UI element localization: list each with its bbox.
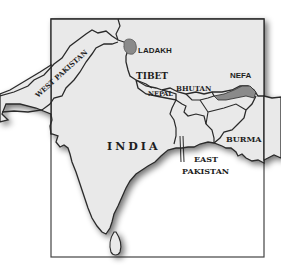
label-nepal: NEPAL bbox=[148, 90, 173, 98]
label-nefa: NEFA bbox=[230, 71, 252, 80]
island-ceylon bbox=[110, 232, 121, 255]
label-india: INDIA bbox=[107, 140, 160, 153]
landmass-east-extension bbox=[264, 96, 281, 160]
label-east-pakistan-2: PAKISTAN bbox=[182, 166, 229, 176]
label-east-pakistan-1: EAST bbox=[194, 154, 218, 164]
label-ladakh: LADAKH bbox=[138, 46, 172, 55]
label-burma: BURMA bbox=[226, 134, 262, 144]
south-asia-map: LADAKH TIBET NEPAL BHUTAN NEFA BURMA EAS… bbox=[0, 0, 281, 273]
label-tibet: TIBET bbox=[136, 71, 168, 81]
label-bhutan: BHUTAN bbox=[176, 84, 212, 93]
region-ladakh-disputed bbox=[124, 39, 136, 54]
map-canvas: LADAKH TIBET NEPAL BHUTAN NEFA BURMA EAS… bbox=[0, 0, 281, 273]
